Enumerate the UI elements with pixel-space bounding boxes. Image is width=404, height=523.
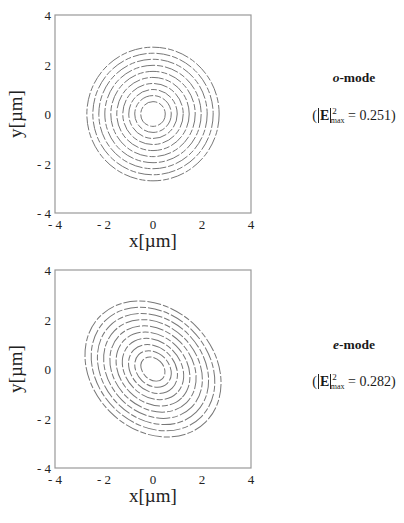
contour-line	[117, 77, 189, 150]
o-mode-contour-plot: - 4- 2024420- 2- 4x[µm]y[µm]	[0, 0, 290, 262]
x-tick-label: 4	[248, 472, 255, 487]
x-tick-label: 4	[248, 217, 255, 232]
e-mode-max-intensity: (E2max = 0.282)	[294, 372, 404, 391]
y-tick-label: - 4	[37, 206, 52, 221]
contour-line	[141, 102, 166, 127]
y-tick-label: 4	[45, 8, 52, 23]
o-mode-panel: - 4- 2024420- 2- 4x[µm]y[µm] o-mode (E2m…	[0, 0, 404, 262]
exponent: 2	[332, 372, 337, 382]
contour-line	[123, 83, 183, 144]
value: = 0.251)	[345, 108, 396, 123]
o-mode-title: o-mode	[299, 70, 404, 86]
y-tick-label: 4	[45, 263, 52, 278]
e-mode-contour-plot: - 4- 2024420- 2- 4x[µm]y[µm]	[0, 255, 290, 523]
y-tick-label: 0	[45, 107, 52, 122]
value: = 0.282)	[345, 374, 396, 389]
contour-line	[87, 47, 219, 181]
mode-suffix: -mode	[339, 70, 375, 85]
contour-line	[99, 59, 207, 168]
y-axis-label: y[µm]	[5, 90, 26, 138]
contour-line	[129, 90, 177, 139]
e-mode-title: e-mode	[299, 337, 404, 353]
subscript: max	[331, 116, 345, 125]
x-tick-label: 2	[199, 217, 206, 232]
contour-line	[105, 65, 201, 162]
y-tick-label: 2	[45, 58, 52, 73]
contour-lines	[87, 47, 219, 181]
e-field-symbol: E	[320, 108, 329, 123]
x-tick-label: - 2	[97, 472, 111, 487]
o-mode-max-intensity: (E2max = 0.251)	[294, 106, 404, 125]
contour-line	[135, 96, 171, 133]
contour-lines	[57, 273, 248, 464]
y-tick-label: - 2	[37, 412, 51, 427]
contour-line	[66, 282, 240, 456]
x-tick-label: 2	[199, 472, 206, 487]
y-tick-label: 0	[45, 362, 52, 377]
paren: (	[312, 108, 317, 123]
y-tick-label: 2	[45, 313, 52, 328]
e-field-symbol: E	[320, 374, 329, 389]
contour-line	[57, 273, 248, 464]
x-axis-label: x[µm]	[129, 230, 177, 251]
x-axis-label: x[µm]	[129, 485, 177, 506]
contour-line	[111, 71, 195, 156]
x-tick-label: - 2	[97, 217, 111, 232]
subscript: max	[331, 382, 345, 391]
contour-line	[127, 343, 178, 394]
y-tick-label: - 4	[37, 461, 52, 476]
paren: (	[312, 374, 317, 389]
y-tick-label: - 2	[37, 157, 51, 172]
contour-line	[84, 300, 223, 439]
plot-frame	[55, 15, 251, 213]
contour-line	[110, 326, 196, 412]
contour-line	[75, 291, 231, 447]
y-axis-label: y[µm]	[5, 345, 26, 393]
exponent: 2	[332, 106, 337, 116]
contour-line	[136, 352, 170, 386]
mode-suffix: -mode	[339, 337, 375, 352]
contour-line	[92, 308, 213, 429]
e-mode-panel: - 4- 2024420- 2- 4x[µm]y[µm] e-mode (E2m…	[0, 255, 404, 523]
contour-line	[101, 317, 205, 421]
plot-frame	[55, 270, 251, 468]
